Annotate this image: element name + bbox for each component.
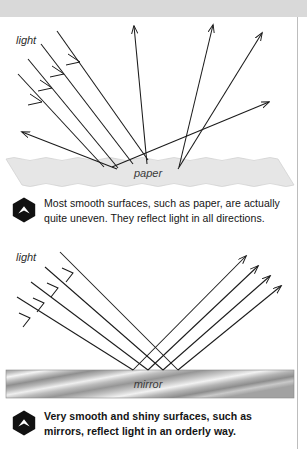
incoming-ray-bundle-mirror <box>17 252 178 370</box>
light-label-mirror: light <box>16 251 37 263</box>
diagram-specular-reflection-mirror: mirror light <box>0 242 297 404</box>
caption-text-specular: Very smooth and shiny surfaces, such as … <box>44 409 260 438</box>
surface-label-paper: paper <box>133 167 163 179</box>
top-band <box>0 0 307 17</box>
caption-line: mirrors, reflect light in an orderly way… <box>44 424 252 439</box>
caption-diffuse-reflection: Most smooth surfaces, such as paper, are… <box>0 196 297 227</box>
right-margin-rule <box>297 17 298 449</box>
hexagon-up-arrow-icon <box>12 410 36 440</box>
figure-page: paper light <box>0 0 307 449</box>
light-label-paper: light <box>16 34 37 46</box>
surface-label-mirror: mirror <box>134 378 164 390</box>
incoming-ray-bundle-paper <box>18 31 148 168</box>
diagram-diffuse-reflection-paper: paper light <box>0 17 297 192</box>
caption-line: quite uneven. They reflect light in all … <box>44 211 280 226</box>
hexagon-up-arrow-icon <box>12 197 36 227</box>
caption-text-diffuse: Most smooth surfaces, such as paper, are… <box>44 196 288 225</box>
caption-specular-reflection: Very smooth and shiny surfaces, such as … <box>0 409 297 440</box>
caption-line: Most smooth surfaces, such as paper, are… <box>44 196 280 211</box>
caption-line: Very smooth and shiny surfaces, such as <box>44 409 252 424</box>
outgoing-ray-bundle-mirror <box>133 256 281 370</box>
